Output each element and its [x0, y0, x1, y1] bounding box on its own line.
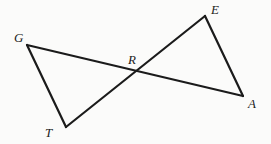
geometry-canvas — [0, 0, 271, 144]
vertex-label-e: E — [211, 3, 219, 16]
segment-GT — [27, 45, 66, 127]
vertex-label-g: G — [14, 31, 23, 44]
vertex-label-t: T — [45, 126, 52, 139]
geometry-figure: G T E A R — [0, 0, 271, 144]
segment-TE — [66, 16, 205, 127]
vertex-label-r: R — [128, 53, 136, 66]
segment-EA — [205, 16, 243, 96]
vertex-label-a: A — [248, 97, 256, 110]
